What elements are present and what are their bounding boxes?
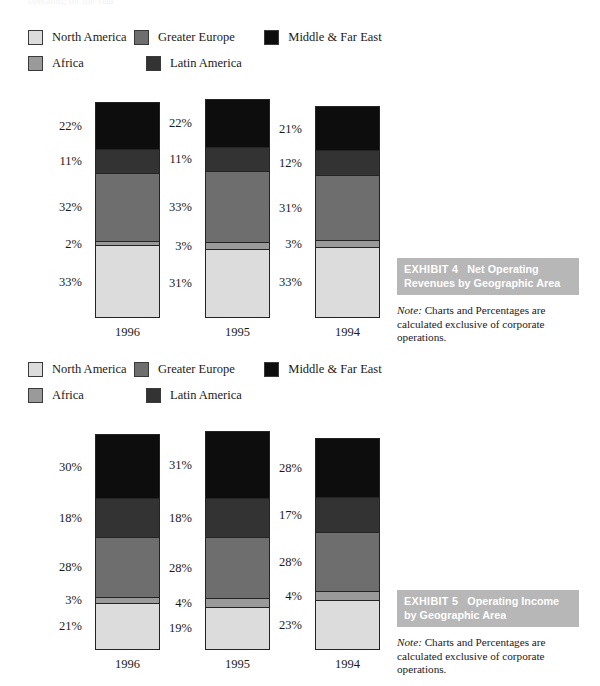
legend-swatch-icon (28, 30, 43, 45)
bar-segment-latin-america: 17% (316, 498, 379, 534)
bar-segment-percent-label: 33% (169, 200, 192, 213)
exhibit-5-note-word: Note: (397, 636, 422, 648)
legend-swatch-icon (264, 362, 279, 377)
legend-swatch-icon (28, 362, 43, 377)
bar-segment-north-america: 23% (316, 601, 379, 649)
exhibit-page: operating for the year North AmericaGrea… (0, 0, 600, 686)
exhibit-4-note: Note: Charts and Percentages are calcula… (397, 304, 579, 345)
bar-category-label: 1994 (315, 657, 380, 671)
bar-segment-percent-label: 23% (279, 618, 302, 631)
bar-segment-greater-europe: 31% (316, 176, 379, 241)
bar-category-label: 1995 (205, 657, 270, 671)
bar-segment-percent-label: 11% (60, 155, 82, 168)
bar-segment-percent-label: 4% (285, 589, 302, 602)
legend-swatch-icon (134, 362, 149, 377)
legend-item-label: Latin America (170, 388, 242, 403)
bar-segment-north-america: 31% (206, 250, 269, 317)
stacked-bar: 31%18%28%4%19% (205, 431, 270, 650)
legend-item-label: Latin America (170, 56, 242, 71)
bar-segment-middle-far-east: 31% (206, 432, 269, 499)
bar-segment-percent-label: 22% (169, 117, 192, 130)
bar-segment-latin-america: 12% (316, 151, 379, 176)
legend-item-greater-europe: Greater Europe (134, 356, 264, 382)
bar-segment-percent-label: 28% (59, 561, 82, 574)
legend-swatch-icon (28, 388, 43, 403)
legend-item-africa: Africa (28, 50, 146, 76)
legend-row: North AmericaGreater EuropeMiddle & Far … (28, 24, 408, 50)
bar-category-label: 1996 (95, 325, 160, 339)
bar-segment-percent-label: 31% (169, 277, 192, 290)
bar-segment-percent-label: 17% (279, 509, 302, 522)
legend-item-latin-america: Latin America (146, 382, 291, 408)
bar-category-label: 1995 (205, 325, 270, 339)
exhibit-4-note-word: Note: (397, 304, 422, 316)
bar-segment-percent-label: 2% (65, 237, 82, 250)
bar-segment-percent-label: 21% (59, 620, 82, 633)
bar-segment-percent-label: 28% (169, 562, 192, 575)
bar-segment-north-america: 21% (96, 604, 159, 649)
bar-segment-percent-label: 4% (175, 596, 192, 609)
legend-swatch-icon (28, 56, 43, 71)
bar-segment-percent-label: 28% (279, 461, 302, 474)
legend-item-label: North America (52, 362, 127, 377)
bar-segment-middle-far-east: 28% (316, 439, 379, 498)
exhibit-5-number: EXHIBIT 5 (404, 595, 458, 607)
legend-item-middle-far-east: Middle & Far East (264, 24, 408, 50)
legend-row: North AmericaGreater EuropeMiddle & Far … (28, 356, 408, 382)
bar-segment-percent-label: 3% (285, 238, 302, 251)
legend-row: AfricaLatin America (28, 382, 408, 408)
bar-segment-greater-europe: 28% (96, 538, 159, 598)
bar-segment-percent-label: 18% (59, 511, 82, 524)
bar-segment-greater-europe: 28% (206, 538, 269, 599)
bar-segment-percent-label: 11% (170, 153, 192, 166)
legend-swatch-icon (134, 30, 149, 45)
bar-segment-north-america: 33% (316, 248, 379, 317)
legend-swatch-icon (146, 56, 161, 71)
bar-segment-percent-label: 19% (169, 622, 192, 635)
legend-item-middle-far-east: Middle & Far East (264, 356, 408, 382)
legend-item-label: Middle & Far East (288, 362, 381, 377)
exhibit-5-band: EXHIBIT 5Operating Income by Geographic … (397, 590, 579, 627)
bar-segment-percent-label: 3% (65, 594, 82, 607)
stacked-bar: 30%18%28%3%21% (95, 434, 160, 650)
legend-row: AfricaLatin America (28, 50, 408, 76)
exhibit-4-band: EXHIBIT 4Net Operating Revenues by Geogr… (397, 258, 579, 295)
legend-item-label: Greater Europe (158, 30, 235, 45)
bar-segment-middle-far-east: 22% (96, 103, 159, 150)
legend-swatch-icon (264, 30, 279, 45)
legend-item-greater-europe: Greater Europe (134, 24, 264, 50)
bar-segment-latin-america: 18% (206, 499, 269, 538)
legend-item-label: Africa (52, 388, 84, 403)
bar-segment-percent-label: 31% (279, 202, 302, 215)
bar-segment-percent-label: 18% (169, 512, 192, 525)
bar-segment-africa: 4% (316, 592, 379, 600)
chart-legend-2: North AmericaGreater EuropeMiddle & Far … (28, 356, 408, 408)
stacked-bar: 28%17%28%4%23% (315, 438, 380, 650)
bar-segment-latin-america: 18% (96, 499, 159, 538)
legend-item-label: Africa (52, 56, 84, 71)
clipped-header-text: operating for the year (28, 0, 388, 5)
stacked-bar-chart-1: 22%11%32%2%33%199622%11%33%3%31%199521%1… (20, 90, 420, 340)
bar-segment-percent-label: 28% (279, 556, 302, 569)
legend-swatch-icon (146, 388, 161, 403)
bar-segment-percent-label: 21% (279, 122, 302, 135)
bar-segment-percent-label: 30% (59, 460, 82, 473)
bar-segment-percent-label: 12% (279, 157, 302, 170)
bar-segment-percent-label: 32% (59, 201, 82, 214)
bar-segment-greater-europe: 33% (206, 172, 269, 244)
stacked-bar: 22%11%32%2%33% (95, 102, 160, 318)
bar-segment-middle-far-east: 22% (206, 100, 269, 148)
stacked-bar: 22%11%33%3%31% (205, 99, 270, 318)
legend-item-north-america: North America (28, 356, 134, 382)
exhibit-4-number: EXHIBIT 4 (404, 263, 458, 275)
legend-item-latin-america: Latin America (146, 50, 291, 76)
bar-segment-middle-far-east: 21% (316, 107, 379, 151)
bar-segment-percent-label: 3% (175, 239, 192, 252)
bar-segment-greater-europe: 28% (316, 533, 379, 592)
bar-segment-latin-america: 11% (96, 150, 159, 174)
legend-item-label: Middle & Far East (288, 30, 381, 45)
legend-item-label: North America (52, 30, 127, 45)
exhibit-5-caption: EXHIBIT 5Operating Income by Geographic … (397, 590, 579, 677)
chart-legend-1: North AmericaGreater EuropeMiddle & Far … (28, 24, 408, 76)
bar-segment-north-america: 33% (96, 246, 159, 317)
